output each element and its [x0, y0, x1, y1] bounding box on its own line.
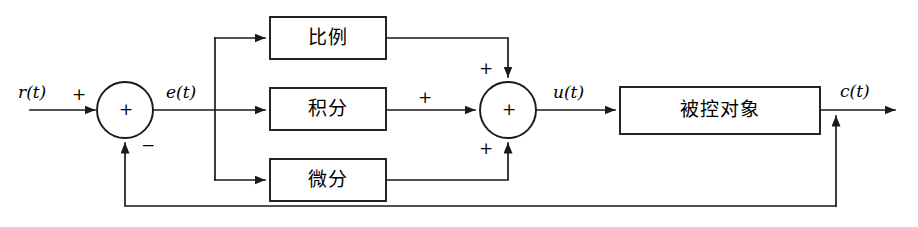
error-signal-label: e(t) [166, 84, 196, 101]
proportional-plus-sign: + [479, 60, 493, 77]
output-signal-label: c(t) [840, 83, 870, 100]
plant-block-label: 被控对象 [620, 100, 820, 119]
control-signal-label: u(t) [553, 84, 584, 101]
derivative-block-label: 微分 [270, 170, 386, 189]
pid-control-block-diagram: 比例 积分 微分 被控对象 r(t) e(t) u(t) c(t) + − + … [0, 0, 918, 227]
control-summer-center-sign: + [502, 101, 516, 118]
derivative-plus-sign: + [479, 140, 493, 157]
error-summer-center-sign: + [119, 101, 133, 118]
reference-signal-label: r(t) [18, 84, 46, 101]
feedback-minus-sign: − [141, 137, 155, 154]
integral-plus-sign: + [418, 89, 432, 106]
proportional-block-label: 比例 [270, 28, 386, 47]
reference-plus-sign: + [72, 86, 86, 103]
integral-block-label: 积分 [270, 99, 386, 118]
